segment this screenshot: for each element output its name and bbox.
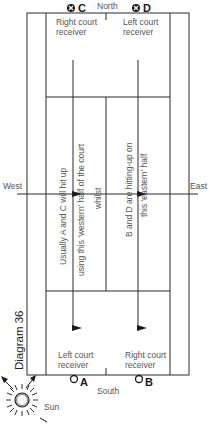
player-d: D (132, 2, 151, 14)
receiver-south-left-line2: receiver (58, 360, 88, 370)
east-label: East (190, 181, 208, 191)
open-circle-icon (136, 376, 143, 383)
annotation-west-line1: Usually A and C will hit up (58, 167, 68, 265)
receiver-south-right-line2: receiver (125, 360, 155, 370)
sun-label: Sun (44, 402, 59, 412)
north-label: North (97, 1, 118, 11)
west-label: West (3, 181, 23, 191)
sun-direction-arrows (1, 375, 36, 389)
receiver-south-left-line1: Left court (58, 350, 94, 360)
receiver-north-right-line1: Left court (123, 17, 159, 27)
receiver-north-left-line2: receiver (56, 27, 86, 37)
player-b: B (136, 376, 154, 389)
player-d-label: D (143, 2, 151, 14)
south-label: South (97, 386, 119, 396)
receiver-north-left-line1: Right court (56, 17, 98, 27)
sun-arrow-right-icon (26, 379, 33, 388)
player-c-label: C (78, 2, 86, 14)
annotation-east-line2: this 'eastern' half (139, 153, 149, 217)
player-a-label: A (80, 376, 88, 388)
annotation-west-line2: using this 'western' half of the court (76, 143, 86, 276)
tennis-court-diagram: C D A B North South West East Right cour… (0, 0, 209, 429)
annotation-middle: whilst (93, 187, 103, 210)
player-c: C (67, 2, 86, 14)
player-b-label: B (145, 376, 153, 388)
receiver-north-right-line2: receiver (123, 27, 153, 37)
diagram-title: Diagram 36 (13, 311, 25, 370)
court-lines (17, 13, 198, 375)
open-circle-icon (71, 376, 78, 383)
sun-icon (6, 384, 47, 422)
player-a: A (71, 376, 89, 389)
annotation-east-line1: B and D are hitting-up on (124, 142, 134, 237)
receiver-south-right-line1: Right court (125, 350, 167, 360)
